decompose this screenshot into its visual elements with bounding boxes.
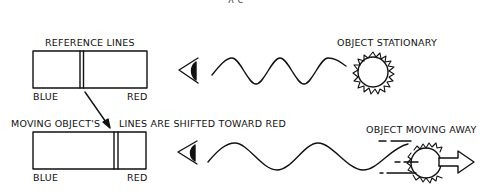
reference-spectrum-box <box>33 51 147 88</box>
lines-shifted-label: LINES ARE SHIFTED TOWARD RED <box>119 119 286 129</box>
moving-objects-label: MOVING OBJECT'S <box>11 119 100 129</box>
light-wave-stationary <box>212 58 346 84</box>
redshift-diagram: λ c <box>0 0 491 192</box>
sun-stationary-icon <box>353 52 394 94</box>
eye-icon <box>178 141 197 164</box>
blue-label-top: BLUE <box>33 92 58 102</box>
eye-icon <box>179 58 198 83</box>
reference-lines-title: REFERENCE LINES <box>45 38 135 48</box>
sun-moving-icon <box>379 141 442 183</box>
motion-arrow-icon <box>439 151 474 173</box>
object-moving-away-label: OBJECT MOVING AWAY <box>366 125 477 135</box>
light-wave-redshifted <box>208 143 408 170</box>
shifted-spectrum-box <box>33 132 146 169</box>
object-stationary-label: OBJECT STATIONARY <box>337 38 437 48</box>
diagram-canvas <box>0 0 491 192</box>
red-label-top: RED <box>127 92 148 102</box>
blue-label-bottom: BLUE <box>33 173 58 183</box>
red-label-bottom: RED <box>127 173 148 183</box>
